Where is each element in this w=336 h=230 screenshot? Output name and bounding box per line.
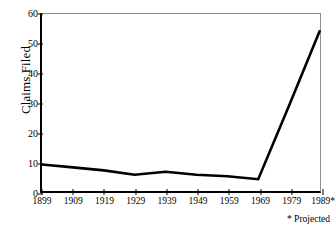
line-path bbox=[42, 30, 320, 179]
y-tick-label: 50 bbox=[16, 39, 38, 49]
footnote-projected: * Projected bbox=[287, 214, 330, 224]
x-tick-label: 1989* bbox=[311, 197, 335, 207]
y-tick-label: 20 bbox=[16, 129, 38, 139]
x-tick-label: 1949 bbox=[189, 197, 208, 207]
x-tick-mark bbox=[323, 189, 324, 195]
x-tick-label: 1979 bbox=[282, 197, 301, 207]
x-tick-label: 1939 bbox=[157, 197, 176, 207]
chart-figure: Claims Filed 0102030405060 1899190919191… bbox=[0, 0, 336, 230]
data-series-claims-filed bbox=[42, 14, 320, 191]
x-tick-label: 1919 bbox=[95, 197, 114, 207]
x-tick-label: 1929 bbox=[126, 197, 145, 207]
x-tick-label: 1969 bbox=[251, 197, 270, 207]
x-tick-label: 1899 bbox=[33, 197, 52, 207]
y-tick-label: 30 bbox=[16, 99, 38, 109]
y-tick-label: 60 bbox=[16, 9, 38, 19]
x-tick-label: 1959 bbox=[220, 197, 239, 207]
x-tick-label: 1909 bbox=[64, 197, 83, 207]
y-tick-label: 10 bbox=[16, 159, 38, 169]
y-tick-label: 40 bbox=[16, 69, 38, 79]
plot-area: 0102030405060 18991909191919291939194919… bbox=[40, 13, 321, 193]
